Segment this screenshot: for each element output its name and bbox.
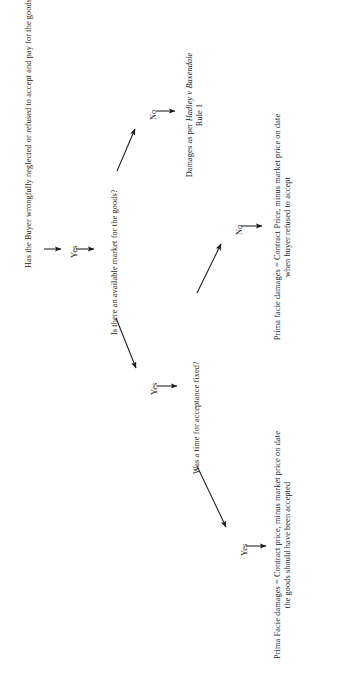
label-q1-yes: Yes — [70, 246, 80, 258]
label-q2-yes: Yes — [150, 383, 160, 395]
outcome-hadley-prefix: Damages as per — [185, 121, 194, 177]
label-q2-no: No — [149, 110, 159, 120]
label-q3-no: No — [235, 225, 245, 235]
node-question-2: Is there an available market for the goo… — [110, 189, 120, 335]
outcome-refused-to-accept: Prima facie damages = Contract Price, mi… — [273, 107, 293, 347]
label-q3-yes: Yes — [240, 544, 250, 556]
edge-q3-to-no — [197, 244, 221, 293]
edge-q3-to-yes — [197, 466, 226, 527]
outcome-hadley-rule-1: Damages as per Hadley v Baxendale Rule 1 — [185, 15, 205, 215]
edge-q2-to-no — [117, 129, 135, 171]
outcome-hadley-case-name: Hadley v Baxendale — [185, 53, 194, 122]
flowchart-canvas: Has the Buyer wrongfully neglected or re… — [0, 0, 338, 679]
outcome-should-have-been-accepted: Prima Facie damages = Contract price, mi… — [273, 425, 293, 665]
outcome-hadley-rule: Rule 1 — [195, 104, 204, 127]
node-question-1: Has the Buyer wrongfully neglected or re… — [24, 0, 34, 268]
node-question-3: Was a time for acceptance fixed? — [192, 361, 202, 474]
